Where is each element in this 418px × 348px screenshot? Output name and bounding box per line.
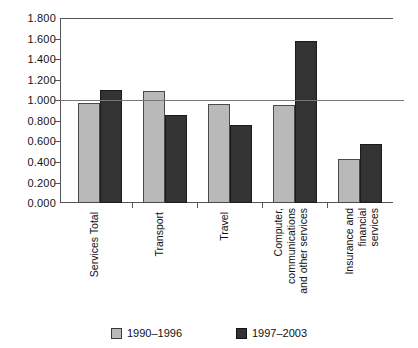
x-axis-label-insurance-financial: Insurance and financial services bbox=[343, 208, 381, 312]
y-axis-tick-label-8: 0.200 bbox=[0, 178, 56, 189]
x-axis-label-travel: Travel bbox=[218, 212, 232, 312]
legend-label-1997-2003: 1997–2003 bbox=[252, 327, 307, 339]
bar-services-total-1997-2003 bbox=[100, 90, 122, 203]
y-axis-tick-label-2: 1.400 bbox=[0, 54, 56, 65]
y-axis-tick-label-6: 0.600 bbox=[0, 136, 56, 147]
x-axis-tick-mark bbox=[197, 203, 198, 208]
bar-services-total-1990-1996 bbox=[78, 103, 100, 203]
y-axis-tick-label-9: 0.000 bbox=[0, 198, 56, 209]
x-axis-label-computer-communications: Computer, communications and other servi… bbox=[272, 208, 310, 312]
x-axis-label-line: and other services bbox=[297, 208, 310, 312]
x-axis-tick-mark bbox=[132, 203, 133, 208]
y-axis-tick-label-1: 1.600 bbox=[0, 34, 56, 45]
bar-insurance-financial-1990-1996 bbox=[338, 159, 360, 203]
chart-legend: 1990–1996 1997–2003 bbox=[0, 327, 418, 339]
reference-line-1000 bbox=[60, 100, 404, 101]
x-axis-label-line: Computer, bbox=[272, 208, 285, 312]
legend-swatch-light-icon bbox=[111, 328, 122, 339]
x-axis-label-line: Insurance and bbox=[343, 208, 356, 312]
legend-item-1990-1996: 1990–1996 bbox=[111, 327, 182, 339]
bar-transport-1997-2003 bbox=[165, 115, 187, 203]
y-axis-tick-label-5: 0.800 bbox=[0, 116, 56, 127]
x-axis-label-line: communications bbox=[285, 208, 298, 312]
bar-computer-communications-1997-2003 bbox=[295, 41, 317, 203]
legend-label-1990-1996: 1990–1996 bbox=[127, 327, 182, 339]
bar-computer-communications-1990-1996 bbox=[273, 105, 295, 203]
legend-item-1997-2003: 1997–2003 bbox=[236, 327, 307, 339]
bar-insurance-financial-1997-2003 bbox=[360, 144, 382, 203]
x-axis-label-line: services bbox=[368, 208, 381, 312]
x-axis-tick-mark bbox=[327, 203, 328, 208]
y-axis-tick-label-7: 0.400 bbox=[0, 157, 56, 168]
bar-chart: 1.800 1.600 1.400 1.200 1.000 0.800 0.60… bbox=[0, 0, 418, 348]
y-axis-tick-label-4: 1.000 bbox=[0, 95, 56, 106]
x-axis-label-services-total: Services Total bbox=[88, 212, 102, 312]
bars-layer bbox=[60, 18, 393, 203]
bar-travel-1997-2003 bbox=[230, 125, 252, 203]
y-axis-tick-label-0: 1.800 bbox=[0, 13, 56, 24]
x-axis-tick-mark bbox=[262, 203, 263, 208]
legend-swatch-dark-icon bbox=[236, 328, 247, 339]
bar-travel-1990-1996 bbox=[208, 104, 230, 203]
x-axis-label-line: financial bbox=[356, 208, 369, 312]
bar-transport-1990-1996 bbox=[143, 91, 165, 203]
x-axis-label-transport: Transport bbox=[153, 212, 167, 312]
y-axis-tick-label-3: 1.200 bbox=[0, 75, 56, 86]
